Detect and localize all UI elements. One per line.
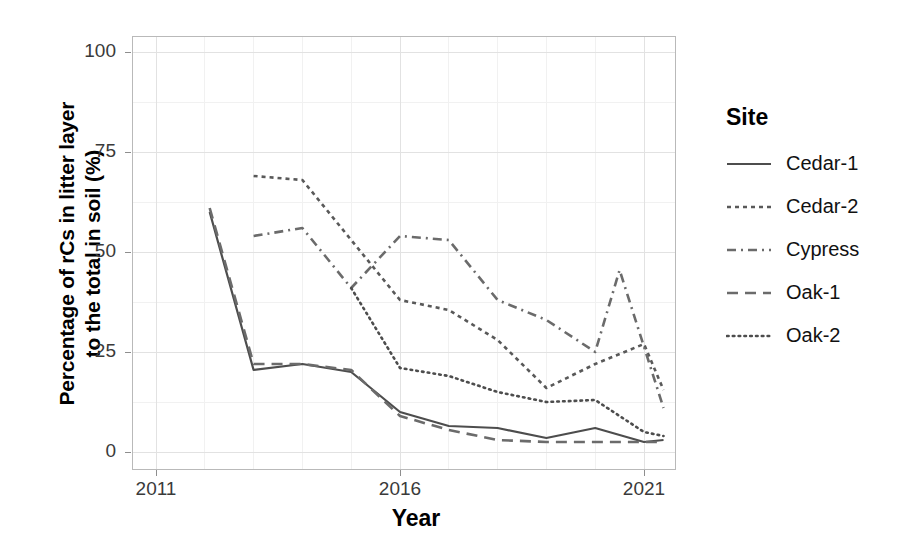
legend-key-short-dash-icon — [726, 197, 772, 217]
y-tick-mark-50 — [125, 252, 131, 253]
legend-item-cypress[interactable]: Cypress — [726, 239, 896, 260]
y-tick-mark-100 — [125, 52, 131, 53]
x-tick-label-2016: 2016 — [365, 478, 435, 500]
legend-label-oak-2: Oak-2 — [786, 324, 840, 347]
legend-label-cedar-1: Cedar-1 — [786, 152, 858, 175]
legend-key-solid-icon — [726, 154, 772, 174]
legend-label-oak-1: Oak-1 — [786, 281, 840, 304]
legend-label-cedar-2: Cedar-2 — [786, 195, 858, 218]
legend-item-oak-1[interactable]: Oak-1 — [726, 282, 896, 303]
chart-legend: Site Cedar-1Cedar-2CypressOak-1Oak-2 — [726, 104, 896, 368]
legend-title: Site — [726, 104, 896, 131]
y-tick-mark-0 — [125, 452, 131, 453]
y-tick-label-0: 0 — [62, 440, 116, 462]
legend-item-cedar-2[interactable]: Cedar-2 — [726, 196, 896, 217]
y-tick-label-100: 100 — [62, 40, 116, 62]
x-tick-mark-2011 — [156, 470, 157, 476]
chart-figure: Percentage of rCs in litter layer to the… — [0, 0, 908, 560]
x-tick-mark-2021 — [644, 470, 645, 476]
plot-canvas — [133, 37, 675, 469]
x-tick-label-2021: 2021 — [609, 478, 679, 500]
y-tick-label-25: 25 — [62, 340, 116, 362]
legend-item-cedar-1[interactable]: Cedar-1 — [726, 153, 896, 174]
x-tick-label-2011: 2011 — [121, 478, 191, 500]
y-tick-mark-25 — [125, 352, 131, 353]
y-tick-label-75: 75 — [62, 140, 116, 162]
legend-item-oak-2[interactable]: Oak-2 — [726, 325, 896, 346]
y-tick-mark-75 — [125, 152, 131, 153]
legend-key-long-dash-icon — [726, 283, 772, 303]
series-line-cypress — [254, 228, 664, 408]
legend-label-cypress: Cypress — [786, 238, 859, 261]
legend-key-dotted-icon — [726, 326, 772, 346]
y-tick-label-50: 50 — [62, 240, 116, 262]
series-line-cedar-2 — [254, 176, 664, 390]
legend-items: Cedar-1Cedar-2CypressOak-1Oak-2 — [726, 153, 896, 346]
legend-key-dash-dot-icon — [726, 240, 772, 260]
x-axis-title: Year — [156, 505, 676, 532]
x-tick-mark-2016 — [400, 470, 401, 476]
minor-gridlines — [133, 37, 675, 469]
plot-panel — [132, 36, 676, 470]
